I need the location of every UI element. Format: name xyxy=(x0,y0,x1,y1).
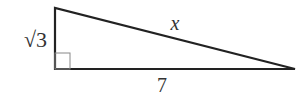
right-angle-marker xyxy=(55,53,70,69)
horizontal-leg-label: 7 xyxy=(157,74,167,96)
triangle-diagram: √3 x 7 xyxy=(0,0,299,112)
hypotenuse-label: x xyxy=(170,12,180,34)
vertical-leg-label: √3 xyxy=(24,27,47,52)
